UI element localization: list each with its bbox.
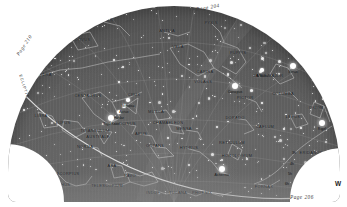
star: [125, 170, 126, 171]
star: [33, 20, 34, 21]
star: [167, 50, 168, 51]
star: [303, 133, 304, 134]
star: [211, 153, 214, 156]
star: [320, 51, 323, 54]
star: [162, 20, 163, 21]
constellation-label: COLUMBA: [272, 91, 294, 96]
star: [167, 63, 168, 64]
star: [197, 56, 198, 57]
star: [51, 122, 53, 124]
star: [290, 182, 291, 183]
constellation-label: CORVUS: [72, 37, 91, 42]
constellation-label: ORION: [309, 105, 324, 110]
constellation-label: CRUX: [128, 92, 140, 97]
star: [204, 75, 206, 77]
star: [175, 111, 176, 112]
bright-star-mimosa: [126, 98, 130, 102]
star: [283, 158, 285, 160]
star-label: Canopus: [228, 90, 243, 94]
star: [168, 34, 169, 35]
star-label: Mimosa: [122, 104, 135, 108]
star: [54, 58, 56, 60]
star: [280, 65, 281, 66]
star: [118, 81, 120, 83]
star: [222, 196, 223, 197]
hour-marker: 5h: [288, 172, 292, 176]
constellation-label: HYDRUS: [180, 145, 199, 150]
star: [255, 149, 256, 150]
star: [60, 154, 61, 155]
star: [265, 52, 267, 54]
star: [14, 125, 15, 126]
star: [258, 134, 259, 135]
constellation-label: SCORPIUS: [56, 171, 79, 176]
constellation-label: DORADO: [225, 115, 244, 120]
page-reference-bottom[interactable]: Page 206: [290, 194, 314, 200]
bright-star-adhara: [260, 68, 264, 72]
star: [189, 77, 190, 78]
star: [54, 144, 55, 145]
star: [208, 97, 210, 99]
star: [260, 23, 261, 24]
star: [61, 74, 62, 75]
star: [264, 13, 265, 14]
constellation-label: ANTLIA: [159, 28, 175, 33]
star: [101, 107, 102, 108]
star: [263, 6, 264, 7]
star: [212, 95, 213, 96]
star: [261, 102, 263, 104]
star: [177, 143, 178, 144]
constellation-label: HOROLOGIUM: [222, 153, 253, 158]
star: [303, 55, 305, 57]
star: [36, 61, 37, 62]
star: [153, 6, 155, 8]
star: [312, 93, 313, 94]
star: [15, 103, 16, 104]
star: [263, 60, 264, 61]
constellation-label: CARINA: [197, 69, 214, 74]
bright-star-achernar: [219, 166, 225, 172]
star: [181, 75, 183, 77]
star: [278, 60, 281, 63]
star: [248, 191, 249, 192]
star: [267, 17, 269, 19]
star: [89, 24, 90, 25]
constellation-label: TRIANGULUM: [80, 128, 109, 133]
star: [192, 118, 194, 120]
star: [161, 106, 162, 107]
star-label: Sirius: [288, 70, 297, 74]
constellation-label: HYDRA: [36, 72, 51, 77]
star: [215, 36, 216, 37]
star-label: Hadar: [114, 116, 124, 120]
star: [252, 90, 253, 91]
star: [235, 62, 236, 63]
star: [21, 100, 22, 101]
star-label: Acrux: [119, 110, 128, 114]
star: [32, 69, 33, 70]
constellation-label: TUCANA: [169, 190, 187, 195]
star: [115, 100, 116, 101]
star: [198, 102, 200, 104]
star: [322, 98, 324, 100]
direction-label-west: W: [335, 180, 341, 187]
star: [126, 160, 127, 161]
star: [70, 151, 71, 152]
star: [121, 144, 122, 145]
star: [154, 81, 155, 82]
star: [77, 166, 78, 167]
star: [217, 39, 218, 40]
star: [113, 59, 115, 61]
star: [279, 139, 282, 142]
star: [200, 139, 201, 140]
star: [283, 163, 284, 164]
star: [263, 136, 264, 137]
star: [87, 17, 88, 18]
constellation-label: CAELUM: [256, 124, 274, 129]
star: [196, 128, 198, 130]
star: [246, 158, 248, 160]
star: [270, 13, 272, 15]
star: [77, 159, 78, 160]
star: [167, 104, 168, 105]
constellation-label: OCTANS: [146, 143, 164, 148]
star: [52, 72, 53, 73]
